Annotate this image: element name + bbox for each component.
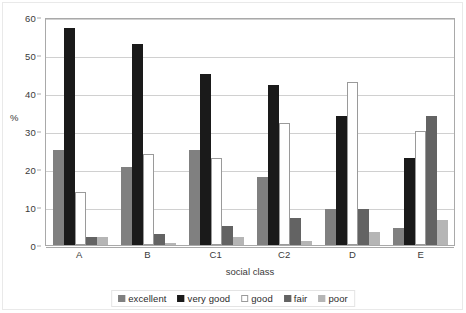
bar[interactable] bbox=[165, 243, 176, 245]
bar-set bbox=[386, 19, 454, 245]
bar-group bbox=[386, 19, 454, 245]
legend-label: good bbox=[251, 293, 273, 304]
y-tick-mark bbox=[37, 208, 41, 209]
legend-swatch-icon bbox=[178, 295, 185, 302]
y-tick-label: 10 bbox=[25, 203, 36, 214]
bar[interactable] bbox=[53, 150, 64, 245]
bar[interactable] bbox=[347, 82, 358, 245]
bar[interactable] bbox=[325, 209, 336, 245]
legend-item[interactable]: good bbox=[241, 293, 273, 304]
y-axis-title: % bbox=[10, 112, 18, 123]
bar[interactable] bbox=[257, 177, 268, 245]
bar-group bbox=[250, 19, 318, 245]
bar-set bbox=[250, 19, 318, 245]
bar-group bbox=[46, 19, 114, 245]
bar[interactable] bbox=[211, 158, 222, 245]
bar[interactable] bbox=[86, 237, 97, 245]
bar-groups bbox=[46, 19, 454, 245]
legend-swatch-icon bbox=[118, 295, 125, 302]
y-tick-label: 0 bbox=[31, 241, 36, 252]
bar[interactable] bbox=[301, 241, 312, 245]
legend-item[interactable]: excellent bbox=[118, 293, 166, 304]
y-axis: 0102030405060 bbox=[0, 18, 41, 246]
bar[interactable] bbox=[437, 220, 448, 245]
bar[interactable] bbox=[154, 234, 165, 245]
y-tick-mark bbox=[37, 94, 41, 95]
y-tick-label: 30 bbox=[25, 127, 36, 138]
legend-label: fair bbox=[294, 293, 308, 304]
bar[interactable] bbox=[404, 158, 415, 245]
y-tick-mark bbox=[37, 246, 41, 247]
y-tick-label: 40 bbox=[25, 89, 36, 100]
bar[interactable] bbox=[143, 154, 154, 245]
legend-label: excellent bbox=[128, 293, 166, 304]
bar-chart-figure: 0102030405060 % ABC1C2DE social class ex… bbox=[0, 0, 466, 313]
x-axis-title: social class bbox=[45, 266, 455, 277]
x-tick-label: C2 bbox=[250, 249, 318, 265]
bar-set bbox=[114, 19, 182, 245]
bar[interactable] bbox=[200, 74, 211, 245]
bar[interactable] bbox=[75, 192, 86, 245]
y-tick-mark bbox=[37, 18, 41, 19]
y-tick-mark bbox=[37, 132, 41, 133]
y-tick-label: 50 bbox=[25, 51, 36, 62]
bar[interactable] bbox=[132, 44, 143, 245]
plot-area bbox=[45, 18, 455, 246]
x-tick-label: B bbox=[113, 249, 181, 265]
bar[interactable] bbox=[97, 237, 108, 245]
bar-group bbox=[114, 19, 182, 245]
x-axis-tick-labels: ABC1C2DE bbox=[45, 249, 455, 265]
bar-set bbox=[318, 19, 386, 245]
bar[interactable] bbox=[233, 237, 244, 245]
bar[interactable] bbox=[121, 167, 132, 245]
gridline bbox=[46, 247, 454, 248]
bar[interactable] bbox=[64, 28, 75, 245]
bar[interactable] bbox=[369, 232, 380, 245]
y-tick-label: 20 bbox=[25, 165, 36, 176]
legend-swatch-icon bbox=[241, 295, 248, 302]
bar-set bbox=[182, 19, 250, 245]
legend-item[interactable]: very good bbox=[178, 293, 231, 304]
bar-set bbox=[46, 19, 114, 245]
y-tick-mark bbox=[37, 56, 41, 57]
bar[interactable] bbox=[415, 131, 426, 245]
bar[interactable] bbox=[393, 228, 404, 245]
legend-item[interactable]: fair bbox=[284, 293, 308, 304]
legend-item[interactable]: poor bbox=[318, 293, 347, 304]
legend-swatch-icon bbox=[318, 295, 325, 302]
y-tick-mark bbox=[37, 170, 41, 171]
bar-group bbox=[318, 19, 386, 245]
bar[interactable] bbox=[336, 116, 347, 245]
bar[interactable] bbox=[189, 150, 200, 245]
bar[interactable] bbox=[279, 123, 290, 245]
x-tick-label: E bbox=[387, 249, 455, 265]
y-tick-label: 60 bbox=[25, 13, 36, 24]
chart-legend: excellentvery goodgoodfairpoor bbox=[111, 290, 355, 307]
legend-label: poor bbox=[328, 293, 347, 304]
bar[interactable] bbox=[268, 85, 279, 245]
bar[interactable] bbox=[290, 218, 301, 245]
bar[interactable] bbox=[358, 209, 369, 245]
legend-swatch-icon bbox=[284, 295, 291, 302]
bar[interactable] bbox=[426, 116, 437, 245]
x-tick-label: C1 bbox=[182, 249, 250, 265]
legend-label: very good bbox=[188, 293, 231, 304]
bar-group bbox=[182, 19, 250, 245]
bar[interactable] bbox=[222, 226, 233, 245]
x-tick-label: A bbox=[45, 249, 113, 265]
x-tick-label: D bbox=[318, 249, 386, 265]
